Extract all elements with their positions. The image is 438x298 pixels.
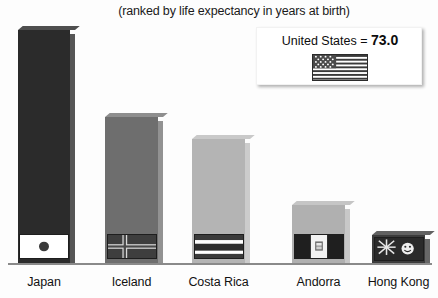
bar-group-japan: 76.1 Japan [18,0,70,298]
plot-area: 76.1 Japan 75.7 [0,0,438,298]
country-label-costa-rica: Costa Rica [188,275,248,289]
bar-group-iceland: 75.7 Iceland [105,0,158,298]
bar-group-hong-kong: 75.1 [372,0,425,298]
bar-group-andorra: 75.3 Andorra [292,0,345,298]
andorra-flag-icon [294,234,344,259]
country-label-andorra: Andorra [297,275,341,289]
iceland-flag-icon [107,234,157,259]
bar-japan[interactable] [18,30,70,263]
bar-group-costa-rica: 75.6 Costa Rica [192,0,245,298]
life-expectancy-bar-chart: (ranked by life expectancy in years at b… [0,0,438,298]
japan-flag-icon [19,234,69,259]
country-label-iceland: Iceland [112,275,152,289]
hong-kong-flag-icon [374,237,424,261]
country-label-japan: Japan [27,275,61,289]
costa-rica-flag-icon [194,234,244,259]
country-label-hong-kong: Hong Kong [368,275,430,289]
